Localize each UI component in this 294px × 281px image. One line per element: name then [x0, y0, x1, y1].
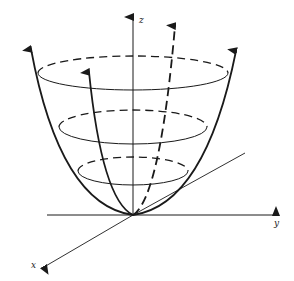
paraboloid-svg — [0, 0, 294, 281]
paraboloid-diagram: z y x — [0, 0, 294, 281]
z-axis-label: z — [139, 15, 144, 25]
outer-parabola-left — [31, 49, 133, 215]
back-trace-curve — [133, 26, 175, 215]
x-axis — [44, 215, 133, 267]
y-axis-label: y — [274, 218, 279, 228]
x-axis-label: x — [31, 260, 36, 270]
